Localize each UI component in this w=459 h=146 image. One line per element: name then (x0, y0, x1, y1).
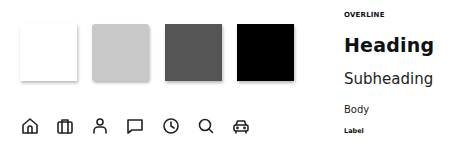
search-icon (196, 116, 216, 136)
clock-icon (161, 116, 181, 136)
user-icon (90, 116, 110, 136)
heading-text: Heading (344, 34, 434, 56)
swatch-dark-gray (165, 24, 222, 81)
briefcase-icon (55, 116, 75, 136)
car-icon (231, 116, 251, 136)
chat-icon (125, 116, 145, 136)
swatch-black (237, 24, 294, 81)
swatch-light-gray (92, 24, 149, 81)
subheading-text: Subheading (344, 70, 433, 88)
swatch-white (20, 24, 77, 81)
label-text: Label (344, 127, 364, 135)
body-text: Body (344, 104, 369, 115)
overline-text: OVERLINE (344, 11, 385, 19)
home-icon (20, 116, 40, 136)
